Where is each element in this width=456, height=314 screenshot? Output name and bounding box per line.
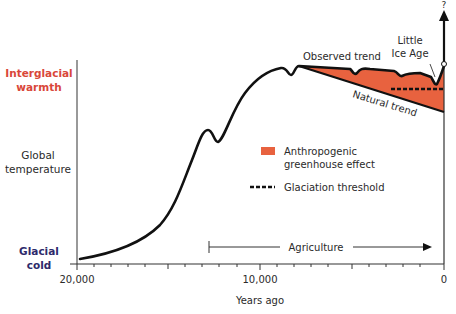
little-ice-age-label2: Ice Age bbox=[391, 48, 428, 59]
legend-anthro-label1: Anthropogenic bbox=[284, 146, 357, 157]
chart-canvas: Anthropogenic greenhouse effect Glaciati… bbox=[0, 0, 456, 314]
future-question-mark: ? bbox=[442, 0, 447, 10]
little-ice-age-label1: Little bbox=[397, 35, 422, 46]
future-arrow-head bbox=[439, 10, 449, 21]
x-axis-title: Years ago bbox=[235, 295, 284, 306]
little-ice-age-pointer bbox=[430, 64, 435, 77]
tick-label-20000: 20,000 bbox=[60, 274, 95, 285]
legend-anthro-swatch bbox=[261, 147, 275, 155]
legend-anthro-label2: greenhouse effect bbox=[284, 159, 375, 170]
agriculture-arrow-head bbox=[423, 243, 432, 251]
tick-label-0: 0 bbox=[441, 274, 447, 285]
present-point bbox=[442, 62, 447, 67]
agriculture-label: Agriculture bbox=[289, 242, 344, 253]
tick-label-10000: 10,000 bbox=[243, 274, 278, 285]
x-ticks bbox=[77, 264, 444, 270]
observed-trend-label: Observed trend bbox=[303, 51, 381, 62]
legend-glac-label: Glaciation threshold bbox=[284, 182, 385, 193]
